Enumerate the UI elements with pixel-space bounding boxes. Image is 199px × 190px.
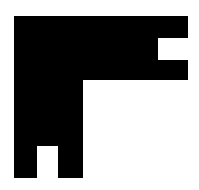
top-bar-lower [14,60,188,80]
right-leg [58,146,83,178]
vertical-stem [14,80,83,146]
top-bar [14,16,188,38]
top-bar-middle [14,38,158,60]
left-leg [14,146,37,178]
